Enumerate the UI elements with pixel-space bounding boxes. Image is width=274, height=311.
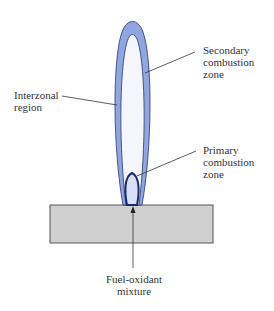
label-line: zone bbox=[203, 68, 254, 80]
fuel-mixture-label: Fuel-oxidant mixture bbox=[98, 273, 170, 297]
interzonal-label: Interzonal region bbox=[14, 89, 59, 113]
label-line: Fuel-oxidant bbox=[98, 273, 170, 285]
label-line: Secondary bbox=[203, 44, 254, 56]
primary-combustion-zone bbox=[125, 173, 138, 205]
secondary-leader bbox=[145, 52, 195, 73]
label-line: region bbox=[14, 101, 59, 113]
secondary-zone-label: Secondary combustion zone bbox=[203, 44, 254, 80]
label-line: mixture bbox=[98, 285, 170, 297]
label-line: combustion bbox=[203, 156, 254, 168]
label-line: Interzonal bbox=[14, 89, 59, 101]
primary-zone-label: Primary combustion zone bbox=[203, 144, 254, 180]
label-line: combustion bbox=[203, 56, 254, 68]
label-line: Primary bbox=[203, 144, 254, 156]
label-line: zone bbox=[203, 168, 254, 180]
interzonal-leader bbox=[62, 96, 117, 105]
